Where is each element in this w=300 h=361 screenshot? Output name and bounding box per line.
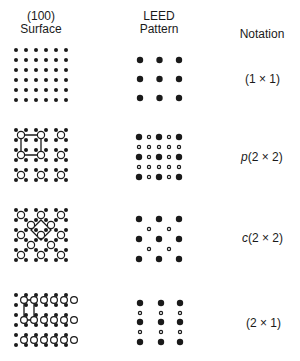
atom-dot xyxy=(54,48,58,52)
surface-2x1 xyxy=(14,293,77,347)
atom-dot xyxy=(14,68,18,72)
atom-dot xyxy=(44,88,48,92)
atom-dot xyxy=(34,128,38,132)
atom-dot xyxy=(54,98,58,102)
atom-dot xyxy=(34,218,38,222)
atom-dot xyxy=(14,313,18,317)
atom-dot xyxy=(24,58,28,62)
structure-diagram xyxy=(0,0,300,361)
atom-dot xyxy=(24,158,28,162)
atom-dot xyxy=(14,258,18,262)
atom-dot xyxy=(24,48,28,52)
atom-dot xyxy=(24,138,28,142)
atom-dot xyxy=(136,154,142,160)
atom-dot xyxy=(44,128,48,132)
adsorbate-circle xyxy=(37,251,44,258)
atom-dot xyxy=(34,68,38,72)
unit-cell-outline xyxy=(21,135,41,155)
adsorbate-circle xyxy=(21,297,28,304)
atom-dot xyxy=(34,78,38,82)
atom-dot xyxy=(156,134,162,140)
atom-dot xyxy=(14,303,18,307)
adsorbate-circle xyxy=(138,311,141,314)
atom-dot xyxy=(34,58,38,62)
atom-dot xyxy=(14,148,18,152)
adsorbate-circle xyxy=(61,297,68,304)
atom-dot xyxy=(34,228,38,232)
atom-dot xyxy=(14,343,18,347)
adsorbate-circle xyxy=(27,221,34,228)
atom-dot xyxy=(176,134,182,140)
adsorbate-circle xyxy=(17,151,24,158)
atom-dot xyxy=(44,98,48,102)
atom-dot xyxy=(54,128,58,132)
atom-dot xyxy=(156,95,162,101)
atom-dot xyxy=(14,98,18,102)
atom-dot xyxy=(158,319,164,325)
atom-dot xyxy=(136,174,142,180)
atom-dot xyxy=(64,48,68,52)
adsorbate-circle xyxy=(57,131,64,138)
atom-dot xyxy=(44,148,48,152)
atom-dot xyxy=(54,88,58,92)
atom-dot xyxy=(14,333,18,337)
atom-dot xyxy=(54,248,58,252)
adsorbate-circle xyxy=(41,337,48,344)
leed-p2x2 xyxy=(136,134,182,180)
adsorbate-circle xyxy=(47,221,54,228)
atom-dot xyxy=(54,178,58,182)
atom-dot xyxy=(64,158,68,162)
atom-dot xyxy=(176,76,182,82)
atom-dot xyxy=(64,78,68,82)
adsorbate-circle xyxy=(41,297,48,304)
adsorbate-circle xyxy=(157,165,160,168)
atom-dot xyxy=(44,258,48,262)
leed-1x1 xyxy=(137,57,182,101)
adsorbate-circle xyxy=(138,330,141,333)
atom-dot xyxy=(34,148,38,152)
atom-dot xyxy=(54,168,58,172)
adsorbate-circle xyxy=(71,297,78,304)
atom-dot xyxy=(24,168,28,172)
adsorbate-circle xyxy=(61,337,68,344)
leed-c2x2 xyxy=(136,216,182,262)
atom-dot xyxy=(24,228,28,232)
atom-dot xyxy=(136,134,142,140)
atom-dot xyxy=(64,128,68,132)
atom-dot xyxy=(64,58,68,62)
atom-dot xyxy=(24,208,28,212)
atom-dot xyxy=(137,95,143,101)
atom-dot xyxy=(14,78,18,82)
atom-dot xyxy=(176,95,182,101)
atom-dot xyxy=(64,168,68,172)
atom-dot xyxy=(24,248,28,252)
adsorbate-circle xyxy=(159,330,162,333)
adsorbate-circle xyxy=(57,151,64,158)
atom-dot xyxy=(34,158,38,162)
adsorbate-circle xyxy=(17,251,24,258)
adsorbate-circle xyxy=(31,317,38,324)
atom-dot xyxy=(34,48,38,52)
atom-dot xyxy=(64,248,68,252)
atom-dot xyxy=(177,339,183,345)
atom-dot xyxy=(64,258,68,262)
adsorbate-circle xyxy=(159,311,162,314)
adsorbate-circle xyxy=(147,175,150,178)
atom-dot xyxy=(44,228,48,232)
atom-dot xyxy=(14,88,18,92)
atom-dot xyxy=(64,88,68,92)
adsorbate-circle xyxy=(37,131,44,138)
atom-dot xyxy=(176,174,182,180)
atom-dot xyxy=(54,68,58,72)
atom-dot xyxy=(176,256,182,262)
atom-dot xyxy=(44,48,48,52)
adsorbate-circle xyxy=(21,317,28,324)
adsorbate-circle xyxy=(51,317,58,324)
adsorbate-circle xyxy=(137,145,140,148)
atom-dot xyxy=(24,218,28,222)
atom-dot xyxy=(64,178,68,182)
atom-dot xyxy=(24,128,28,132)
adsorbate-circle xyxy=(147,247,150,250)
adsorbate-circle xyxy=(167,165,170,168)
atom-dot xyxy=(54,78,58,82)
